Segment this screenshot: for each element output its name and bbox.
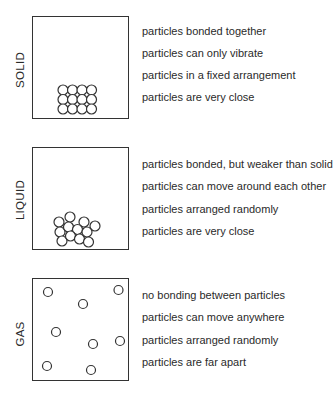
liquid-description-2: particles can move around each other (142, 180, 326, 192)
gas-description-1: no bonding between particles (142, 289, 285, 301)
solid-description-2: particles can only vibrate (142, 47, 263, 59)
solid-label: SOLID (14, 52, 26, 88)
liquid-label: LIQUID (14, 180, 26, 220)
liquid-description-3: particles arranged randomly (142, 203, 278, 215)
solid-description-4: particles are very close (142, 91, 255, 103)
solid-container-box (32, 16, 129, 119)
gas-description-3: particles arranged randomly (142, 334, 278, 346)
liquid-container-box (32, 147, 129, 250)
liquid-description-1: particles bonded, but weaker than solid (142, 158, 333, 170)
gas-container-box (32, 278, 129, 381)
liquid-description-4: particles are very close (142, 225, 255, 237)
solid-description-3: particles in a fixed arrangement (142, 69, 295, 81)
solid-description-1: particles bonded together (142, 25, 266, 37)
gas-description-2: particles can move anywhere (142, 311, 284, 323)
gas-description-4: particles are far apart (142, 356, 246, 368)
gas-label: GAS (14, 321, 26, 346)
